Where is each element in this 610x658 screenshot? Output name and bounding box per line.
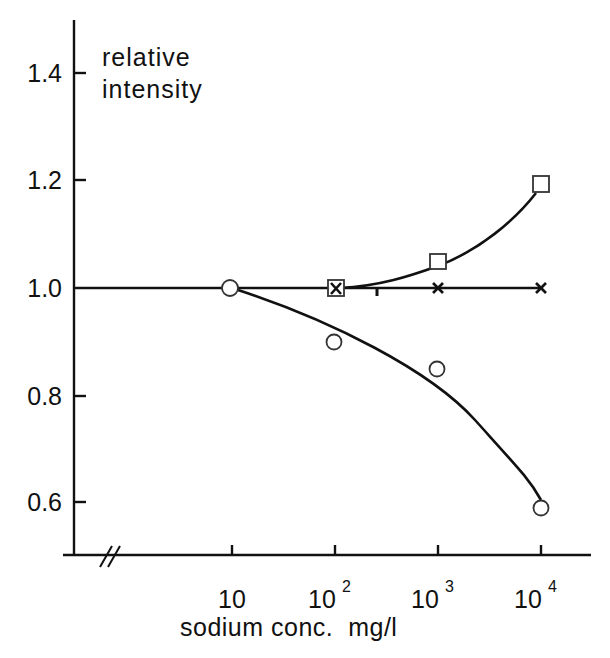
x-tick-label-exp: 2: [342, 578, 351, 595]
y-tick-label: 1.0: [27, 274, 62, 302]
circle-marker: [430, 362, 445, 377]
circle-series-fit-curve: [238, 290, 541, 500]
x-tick-label-base: 10: [514, 585, 542, 613]
y-tick-labels: 1.4 1.2 1.0 0.8 0.6: [27, 59, 62, 516]
x-tick-labels: 10 10 2 10 3 10 4: [218, 578, 557, 613]
x-ticks: [232, 545, 541, 555]
x-axis-title: sodium conc. mg/l: [180, 613, 397, 641]
square-marker: [430, 254, 446, 269]
x-tick-label-exp: 4: [548, 578, 557, 595]
circle-marker: [327, 335, 342, 350]
y-axis-title-line1: relative: [102, 43, 191, 71]
y-tick-label: 1.4: [27, 59, 62, 87]
y-tick-label: 0.6: [27, 488, 62, 516]
y-axis-title-line2: intensity: [102, 75, 203, 103]
axis-break-mark: [100, 546, 120, 567]
x-tick-label-exp: 3: [445, 578, 454, 595]
square-marker: [533, 176, 549, 192]
circle-series-markers: [222, 280, 549, 516]
square-series-markers: [328, 176, 549, 296]
x-tick-label-base: 10: [411, 585, 439, 613]
x-tick-label-base: 10: [308, 585, 336, 613]
circle-marker: [222, 280, 238, 296]
square-series-fit-curve: [340, 193, 536, 288]
y-tick-label: 1.2: [27, 166, 62, 194]
x-tick-label: 10: [218, 585, 246, 613]
chart: 1.4 1.2 1.0 0.8 0.6 relative intensity 1…: [0, 0, 610, 658]
y-tick-label: 0.8: [27, 382, 62, 410]
circle-marker: [534, 501, 549, 516]
